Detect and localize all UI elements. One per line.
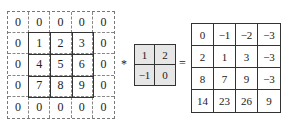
equals-operator: =: [179, 56, 186, 71]
input-cell: 0: [93, 12, 114, 33]
input-cell: 0: [50, 12, 71, 33]
output-cell: 9: [258, 90, 280, 112]
kernel-cell: −1: [135, 65, 155, 85]
input-cell: 4: [29, 54, 50, 75]
input-cell: 0: [8, 76, 29, 97]
output-cell: −3: [258, 24, 280, 46]
input-cell: 0: [93, 97, 114, 118]
input-cell: 1: [29, 33, 50, 54]
output-cell: −2: [236, 24, 258, 46]
convolution-operator: *: [121, 57, 127, 72]
input-cell: 0: [72, 12, 93, 33]
output-cell: 2: [192, 46, 214, 68]
kernel-grid: 12−10: [134, 44, 176, 86]
input-cell: 6: [72, 54, 93, 75]
output-cell: 3: [236, 46, 258, 68]
input-cell: 0: [8, 54, 29, 75]
kernel-cell: 1: [135, 45, 155, 65]
input-cell: 0: [29, 12, 50, 33]
output-cell: −3: [258, 68, 280, 90]
kernel-cell: 2: [155, 45, 175, 65]
input-cell: 0: [93, 76, 114, 97]
input-cell: 7: [29, 76, 50, 97]
output-cell: 9: [236, 68, 258, 90]
output-cell: 23: [214, 90, 236, 112]
input-cell: 0: [72, 97, 93, 118]
input-cell: 0: [8, 97, 29, 118]
input-cell: 0: [50, 97, 71, 118]
input-cell: 0: [93, 33, 114, 54]
output-cell: 1: [214, 46, 236, 68]
kernel-cell: 0: [155, 65, 175, 85]
input-cell: 8: [50, 76, 71, 97]
input-cell: 3: [72, 33, 93, 54]
output-grid: 0−1−2−3213−3879−31423269: [191, 23, 281, 113]
output-cell: 8: [192, 68, 214, 90]
input-cell: 9: [72, 76, 93, 97]
output-cell: 0: [192, 24, 214, 46]
input-cell: 0: [8, 33, 29, 54]
input-cell: 0: [8, 12, 29, 33]
output-cell: 7: [214, 68, 236, 90]
padded-input-grid: 0000001230045600789000000: [7, 11, 115, 119]
output-cell: 14: [192, 90, 214, 112]
input-cell: 5: [50, 54, 71, 75]
input-cell: 2: [50, 33, 71, 54]
input-cell: 0: [29, 97, 50, 118]
input-cell: 0: [93, 54, 114, 75]
output-cell: 26: [236, 90, 258, 112]
output-cell: −3: [258, 46, 280, 68]
output-cell: −1: [214, 24, 236, 46]
